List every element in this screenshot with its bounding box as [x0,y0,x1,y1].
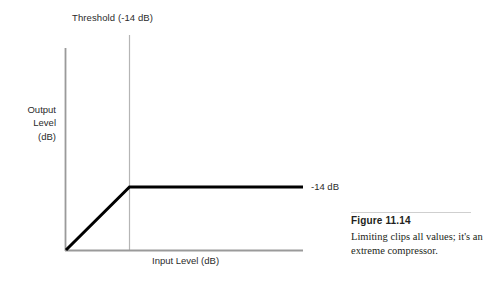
output-ceiling-label: -14 dB [311,181,339,192]
figure-caption-body: Limiting clips all values; it's an extre… [351,230,485,260]
threshold-label: Threshold (-14 dB) [72,12,153,23]
y-axis-label-line-1: Output [27,104,56,115]
figure-limiting-curve: Threshold (-14 dB) Output Level (dB) Inp… [0,0,485,288]
limiter-transfer-curve [66,187,303,250]
x-axis-label: Input Level (dB) [152,255,219,266]
y-axis-label: Output Level (dB) [0,103,56,143]
figure-caption-title: Figure 11.14 [351,215,485,228]
caption-divider [351,212,471,213]
y-axis-label-line-2: Level [33,117,56,128]
figure-caption: Figure 11.14 Limiting clips all values; … [351,215,485,259]
y-axis-label-line-3: (dB) [38,131,56,142]
